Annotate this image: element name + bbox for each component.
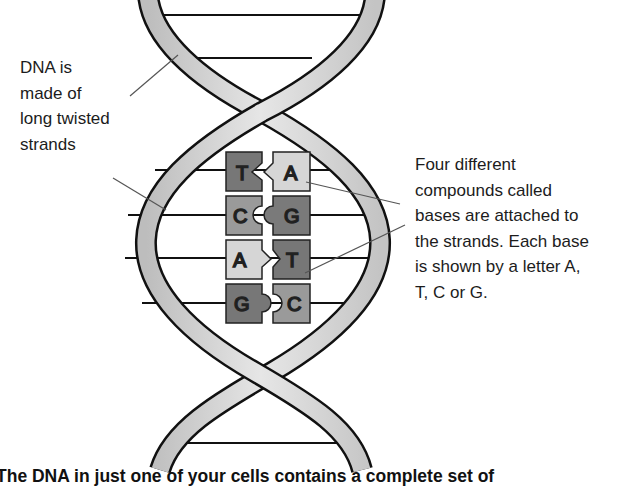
base-pair-2: C G [226,196,310,235]
base-pair-1: T A [226,152,310,191]
base-letter: G [284,205,300,227]
annotation-line: T, C or G. [415,280,589,306]
base-letter: T [286,249,298,271]
strand-back [148,0,380,470]
base-pair-3: A T [226,240,310,279]
base-letter: G [234,293,250,315]
base-pairs: T A C G A T G C [226,152,310,323]
annotation-line: Four different [415,152,589,178]
base-letter: C [233,205,247,227]
annotation-line: bases are attached to [415,203,589,229]
strands-annotation: DNA is made of long twisted strands [20,55,110,157]
annotation-line: long twisted [20,106,110,132]
annotation-line: DNA is [20,55,110,81]
base-letter: C [287,293,301,315]
annotation-line: strands [20,132,110,158]
annotation-line: the strands. Each base [415,229,589,255]
base-letter: T [236,162,248,184]
caption: The DNA in just one of your cells contai… [0,466,494,487]
annotation-line: compounds called [415,178,589,204]
annotation-line: is shown by a letter A, [415,254,589,280]
annotation-line: made of [20,81,110,107]
base-letter: A [233,249,247,271]
base-pair-4: G C [226,284,310,323]
bases-annotation: Four different compounds called bases ar… [415,152,589,305]
base-letter: A [284,162,298,184]
